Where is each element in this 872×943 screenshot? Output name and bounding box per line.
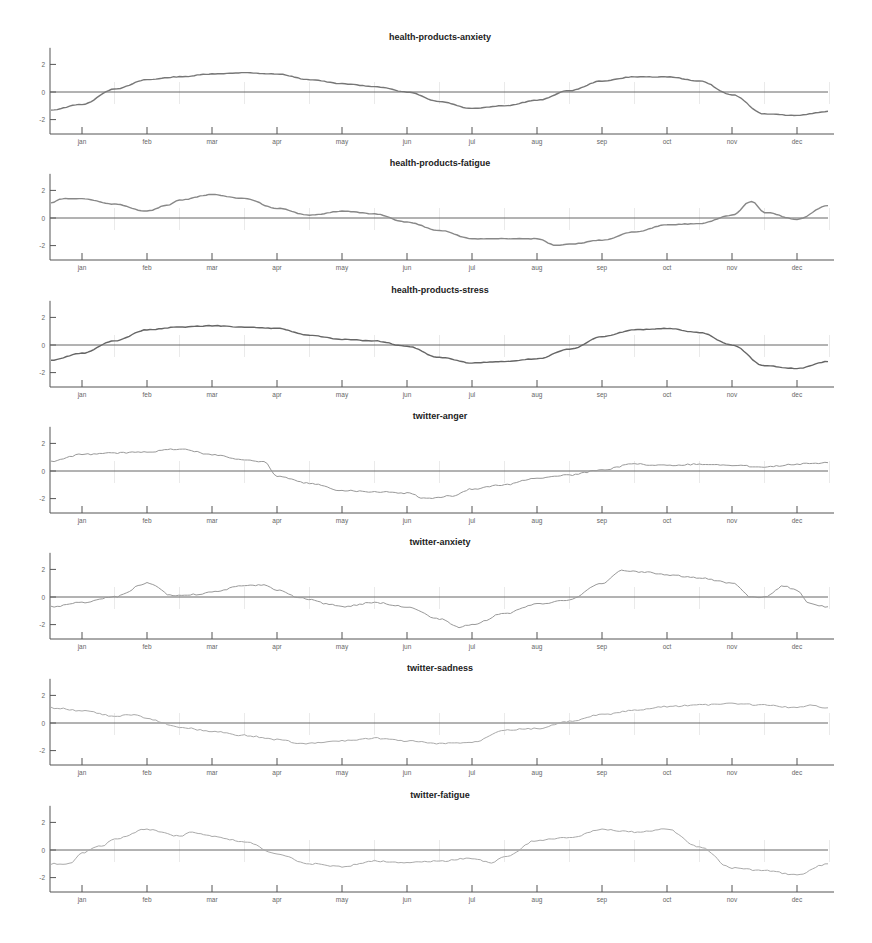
y-tick-label: 2 — [41, 61, 45, 68]
x-tick-label: dec — [792, 138, 803, 145]
x-tick-label: sep — [597, 138, 608, 146]
y-tick-label: -2 — [39, 495, 45, 502]
x-tick-label: jun — [402, 264, 412, 272]
panel-title: twitter-fatigue — [410, 790, 470, 800]
x-tick-label: jul — [468, 138, 476, 146]
x-tick-label: nov — [727, 769, 738, 776]
y-tick-label: -2 — [39, 874, 45, 881]
x-tick-label: aug — [532, 517, 543, 525]
x-tick-label: jan — [77, 264, 87, 272]
y-tick-label: 0 — [41, 720, 45, 727]
x-tick-label: jan — [77, 643, 87, 651]
x-tick-label: jun — [402, 643, 412, 651]
x-tick-label: jan — [77, 517, 87, 525]
y-tick-label: 0 — [41, 215, 45, 222]
panel-title: twitter-anxiety — [409, 537, 470, 547]
x-tick-label: jan — [77, 138, 87, 146]
x-tick-label: sep — [597, 769, 608, 777]
x-tick-label: jun — [402, 391, 412, 399]
x-tick-label: feb — [142, 769, 151, 776]
panel-title: health-products-anxiety — [389, 32, 491, 42]
x-tick-label: sep — [597, 896, 608, 904]
y-tick-label: 0 — [41, 847, 45, 854]
x-tick-label: may — [336, 264, 349, 272]
x-tick-label: sep — [597, 643, 608, 651]
x-tick-label: mar — [206, 517, 218, 524]
x-tick-label: jun — [402, 769, 412, 777]
x-tick-label: nov — [727, 896, 738, 903]
x-tick-label: oct — [663, 138, 672, 145]
x-tick-label: apr — [272, 517, 282, 525]
y-tick-label: 0 — [41, 594, 45, 601]
x-tick-label: dec — [792, 264, 803, 271]
x-tick-label: jun — [402, 896, 412, 904]
x-tick-label: feb — [142, 896, 151, 903]
x-tick-label: jun — [402, 138, 412, 146]
x-tick-label: jan — [77, 769, 87, 777]
x-tick-label: oct — [663, 896, 672, 903]
x-tick-label: aug — [532, 264, 543, 272]
x-tick-label: feb — [142, 391, 151, 398]
x-tick-label: feb — [142, 138, 151, 145]
x-tick-label: dec — [792, 391, 803, 398]
x-tick-label: sep — [597, 391, 608, 399]
x-tick-label: apr — [272, 138, 282, 146]
x-tick-label: oct — [663, 517, 672, 524]
panel-twitter-fatigue: twitter-fatigue20-2janfebmaraprmayjunjul… — [39, 790, 834, 904]
x-tick-label: aug — [532, 138, 543, 146]
y-tick-label: 2 — [41, 819, 45, 826]
panel-title: twitter-anger — [413, 411, 468, 421]
x-tick-label: nov — [727, 264, 738, 271]
x-tick-label: feb — [142, 643, 151, 650]
panel-health-products-fatigue: health-products-fatigue20-2janfebmaraprm… — [39, 158, 834, 272]
y-tick-label: -2 — [39, 621, 45, 628]
x-tick-label: jul — [468, 391, 476, 399]
panel-health-products-stress: health-products-stress20-2janfebmaraprma… — [39, 285, 834, 399]
x-tick-label: jul — [468, 517, 476, 525]
y-tick-label: 2 — [41, 440, 45, 447]
x-tick-label: may — [336, 643, 349, 651]
x-tick-label: dec — [792, 517, 803, 524]
x-tick-label: aug — [532, 643, 543, 651]
x-tick-label: jul — [468, 896, 476, 904]
x-tick-label: jul — [468, 769, 476, 777]
x-tick-label: may — [336, 138, 349, 146]
x-tick-label: feb — [142, 264, 151, 271]
x-tick-label: jul — [468, 643, 476, 651]
y-tick-label: 2 — [41, 187, 45, 194]
x-tick-label: dec — [792, 896, 803, 903]
y-tick-label: 0 — [41, 342, 45, 349]
panel-twitter-anger: twitter-anger20-2janfebmaraprmayjunjulau… — [39, 411, 834, 525]
x-tick-label: apr — [272, 264, 282, 272]
panel-title: health-products-fatigue — [390, 158, 491, 168]
x-tick-label: nov — [727, 517, 738, 524]
y-tick-label: 2 — [41, 314, 45, 321]
x-tick-label: mar — [206, 391, 218, 398]
panel-twitter-anxiety: twitter-anxiety20-2janfebmaraprmayjunjul… — [39, 537, 834, 651]
x-tick-label: mar — [206, 138, 218, 145]
x-tick-label: mar — [206, 769, 218, 776]
x-tick-label: mar — [206, 264, 218, 271]
x-tick-label: mar — [206, 643, 218, 650]
x-tick-label: mar — [206, 896, 218, 903]
x-tick-label: nov — [727, 643, 738, 650]
x-tick-label: dec — [792, 643, 803, 650]
x-tick-label: jul — [468, 264, 476, 272]
x-tick-label: sep — [597, 264, 608, 272]
x-tick-label: apr — [272, 896, 282, 904]
x-tick-label: may — [336, 517, 349, 525]
x-tick-label: jun — [402, 517, 412, 525]
y-tick-label: 0 — [41, 468, 45, 475]
panel-title: health-products-stress — [391, 285, 489, 295]
x-tick-label: oct — [663, 769, 672, 776]
x-tick-label: apr — [272, 391, 282, 399]
x-tick-label: sep — [597, 517, 608, 525]
x-tick-label: may — [336, 391, 349, 399]
x-tick-label: dec — [792, 769, 803, 776]
y-tick-label: -2 — [39, 116, 45, 123]
y-tick-label: 2 — [41, 692, 45, 699]
x-tick-label: may — [336, 769, 349, 777]
x-tick-label: aug — [532, 896, 543, 904]
panel-twitter-sadness: twitter-sadness20-2janfebmaraprmayjunjul… — [39, 663, 834, 777]
x-tick-label: aug — [532, 769, 543, 777]
